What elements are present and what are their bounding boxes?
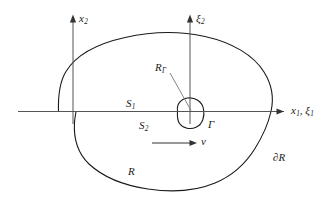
x1-xi1-axis-label: x1, ξ1 (291, 105, 314, 116)
velocity-label: v (201, 136, 206, 147)
crack-contour-path (177, 98, 204, 129)
diagram-svg (0, 0, 326, 204)
xi2-axis-label: ξ2 (196, 13, 205, 24)
x2-axis-label: x2 (79, 13, 88, 24)
surface-s1-label-base: S (126, 97, 132, 109)
crack-radius-label-sub: Γ (162, 67, 166, 75)
x2-axis-arrowhead (70, 15, 76, 23)
xi1-axis-label-sub: 1 (310, 110, 314, 118)
figure-canvas: x2 ξ2 x1, ξ1 S1 S2 RΓ Γ v R ∂R (0, 0, 326, 204)
crack-radius-leader-line (170, 73, 191, 111)
x2-axis-label-sub: 2 (84, 18, 88, 26)
surface-s1-label: S1 (126, 98, 135, 109)
xi2-axis-label-sub: 2 (201, 18, 205, 26)
crack-radius-label: RΓ (155, 62, 166, 73)
x1-axis-label-sub: 1 (296, 110, 300, 118)
surface-s1-label-sub: 1 (132, 103, 136, 111)
region-boundary-label: ∂R (273, 152, 285, 163)
surface-s2-label-sub: 2 (145, 125, 149, 133)
xi2-axis-arrowhead (187, 15, 193, 23)
surface-s2-label: S2 (139, 120, 148, 131)
xi2-axis-label-base: ξ (196, 12, 201, 24)
crack-contour-label: Γ (208, 119, 214, 130)
region-label: R (128, 166, 135, 177)
x1-xi1-axis-arrowhead (277, 108, 285, 114)
velocity-arrowhead (190, 140, 198, 146)
crack-radius-label-base: R (155, 61, 162, 73)
surface-s2-label-base: S (139, 119, 145, 131)
